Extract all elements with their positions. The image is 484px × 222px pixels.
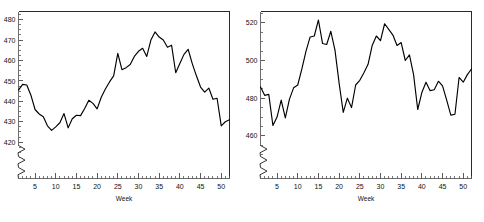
x-axis-tick-label: 30 bbox=[135, 183, 143, 190]
x-axis-tick-label: 10 bbox=[52, 183, 60, 190]
line-chart-figure: 4204304404504604704805101520253035404550… bbox=[0, 0, 484, 222]
x-axis-tick-label: 40 bbox=[418, 183, 426, 190]
x-axis-tick-label: 25 bbox=[356, 183, 364, 190]
y-axis-tick-label: 480 bbox=[246, 95, 258, 102]
left-panel: 4204304404504604704805101520253035404550… bbox=[0, 0, 242, 222]
x-axis-title: Week bbox=[116, 195, 133, 202]
x-axis-tick-label: 30 bbox=[377, 183, 385, 190]
x-axis-tick-label: 45 bbox=[197, 183, 205, 190]
y-axis-tick-label: 430 bbox=[4, 118, 16, 125]
y-axis-tick-label: 420 bbox=[4, 139, 16, 146]
x-axis-title: Week bbox=[358, 195, 375, 202]
data-series-line bbox=[19, 32, 230, 130]
y-axis-tick-label: 460 bbox=[246, 132, 258, 139]
x-axis-tick-label: 15 bbox=[73, 183, 81, 190]
plot-frame bbox=[261, 12, 472, 179]
x-axis-tick-label: 20 bbox=[335, 183, 343, 190]
y-axis-tick-label: 460 bbox=[4, 57, 16, 64]
data-series-line bbox=[261, 20, 472, 126]
x-axis-tick-label: 50 bbox=[217, 183, 225, 190]
x-axis-tick-label: 35 bbox=[397, 183, 405, 190]
x-axis-tick-label: 35 bbox=[155, 183, 163, 190]
x-axis-tick-label: 10 bbox=[294, 183, 302, 190]
y-axis-tick-label: 470 bbox=[4, 37, 16, 44]
x-axis-tick-label: 5 bbox=[33, 183, 37, 190]
right-panel: 4604805005205101520253035404550Week bbox=[242, 0, 484, 222]
right-panel-plot: 4604805005205101520253035404550Week bbox=[242, 0, 484, 222]
x-axis-tick-label: 40 bbox=[176, 183, 184, 190]
x-axis-tick-label: 45 bbox=[439, 183, 447, 190]
y-axis-break-symbol bbox=[18, 146, 25, 179]
x-axis-tick-label: 5 bbox=[275, 183, 279, 190]
y-axis-tick-label: 450 bbox=[4, 78, 16, 85]
y-axis-tick-label: 440 bbox=[4, 98, 16, 105]
left-panel-plot: 4204304404504604704805101520253035404550… bbox=[0, 0, 242, 222]
y-axis-tick-label: 500 bbox=[246, 57, 258, 64]
x-axis-tick-label: 25 bbox=[114, 183, 122, 190]
x-axis-tick-label: 15 bbox=[315, 183, 323, 190]
y-axis-break-symbol bbox=[260, 146, 267, 179]
x-axis-tick-label: 50 bbox=[459, 183, 467, 190]
y-axis-tick-label: 480 bbox=[4, 16, 16, 23]
x-axis-tick-label: 20 bbox=[93, 183, 101, 190]
y-axis-tick-label: 520 bbox=[246, 19, 258, 26]
plot-frame bbox=[19, 12, 230, 179]
